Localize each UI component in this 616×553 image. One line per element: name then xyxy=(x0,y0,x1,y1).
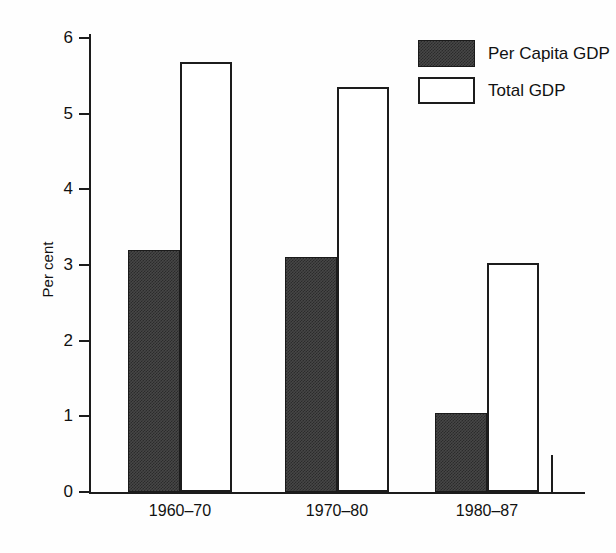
legend-label-total-gdp: Total GDP xyxy=(488,81,565,100)
bar-per-capita-gdp[interactable] xyxy=(435,413,487,492)
bar-total-gdp[interactable] xyxy=(180,62,232,492)
y-tick-label: 0 xyxy=(45,483,73,500)
y-tick-label: 2 xyxy=(45,332,73,349)
y-tick-label: 4 xyxy=(45,180,73,197)
bar-total-gdp[interactable] xyxy=(337,87,389,492)
chart-legend: Per Capita GDP Total GDP xyxy=(418,40,614,114)
legend-entry-total-gdp[interactable]: Total GDP xyxy=(418,77,614,104)
y-tick-label: 6 xyxy=(45,29,73,46)
x-tick-label: 1970–80 xyxy=(267,502,407,520)
y-tick-label: 1 xyxy=(45,407,73,424)
legend-entry-per-capita-gdp[interactable]: Per Capita GDP xyxy=(418,40,614,67)
y-tick-label: 3 xyxy=(45,256,73,273)
y-tick-label: 5 xyxy=(45,105,73,122)
x-tick-label: 1960–70 xyxy=(110,502,250,520)
legend-swatch-per-capita-gdp xyxy=(418,40,475,67)
bar-per-capita-gdp[interactable] xyxy=(285,257,337,492)
bar-total-gdp[interactable] xyxy=(487,263,539,492)
bar-chart-figure: Per cent 0123456 1960–701970–801980–87 P… xyxy=(0,0,616,553)
legend-label-per-capita-gdp: Per Capita GDP xyxy=(488,44,610,63)
legend-swatch-total-gdp xyxy=(418,77,475,104)
x-axis-line xyxy=(89,492,585,494)
x-tick-label: 1980–87 xyxy=(417,502,557,520)
bar-per-capita-gdp[interactable] xyxy=(128,250,180,492)
